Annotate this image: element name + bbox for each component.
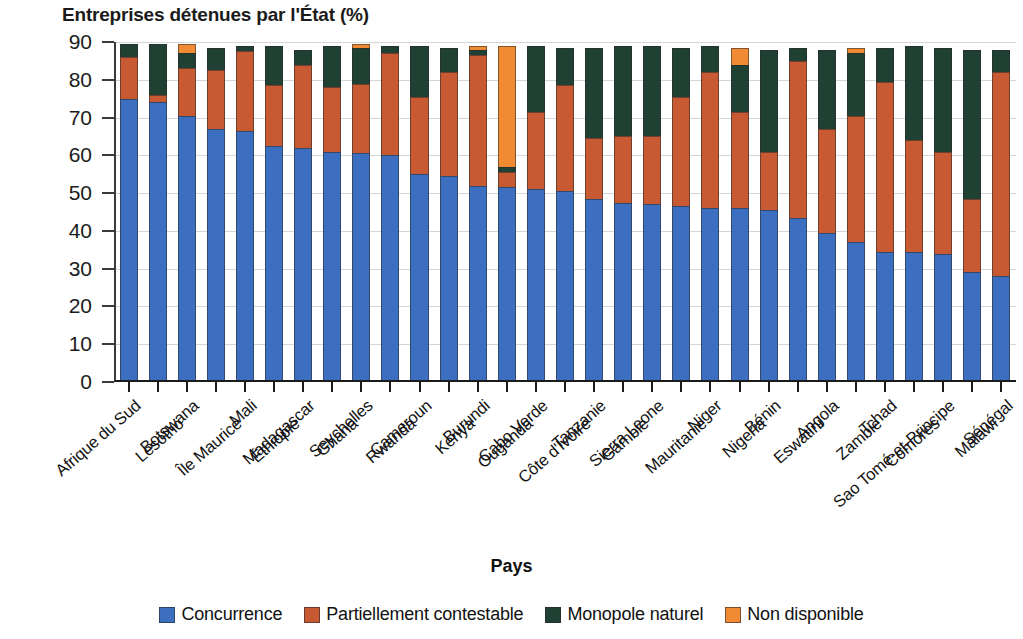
- x-tick-mark: [797, 382, 799, 392]
- x-category-label: Afrique du Sud: [51, 396, 144, 480]
- x-tick-mark: [855, 382, 857, 392]
- legend-swatch-icon: [725, 607, 741, 623]
- x-tick-mark: [535, 382, 537, 392]
- x-tick-mark: [273, 382, 275, 392]
- x-axis-ticks: [114, 382, 1016, 394]
- x-tick-mark: [477, 382, 479, 392]
- y-tick-label: 70: [69, 106, 92, 130]
- x-tick-mark: [564, 382, 566, 392]
- legend-label: Concurrence: [181, 604, 282, 625]
- x-tick-mark: [768, 382, 770, 392]
- y-tick-mark: [102, 117, 114, 119]
- y-tick-label: 90: [69, 30, 92, 54]
- x-tick-mark: [448, 382, 450, 392]
- y-tick-label: 50: [69, 181, 92, 205]
- legend-item[interactable]: Non disponible: [725, 604, 863, 625]
- legend-item[interactable]: Partiellement contestable: [304, 604, 523, 625]
- legend-label: Partiellement contestable: [326, 604, 523, 625]
- x-tick-mark: [651, 382, 653, 392]
- x-tick-mark: [186, 382, 188, 392]
- x-category-label: Cameroun: [366, 396, 435, 460]
- x-tick-mark: [1000, 382, 1002, 392]
- y-tick-mark: [102, 154, 114, 156]
- legend-swatch-icon: [304, 607, 320, 623]
- chart-legend: ConcurrencePartiellement contestableMono…: [0, 604, 1023, 625]
- x-tick-mark: [913, 382, 915, 392]
- legend-swatch-icon: [545, 607, 561, 623]
- y-tick-mark: [102, 305, 114, 307]
- x-tick-mark: [157, 382, 159, 392]
- y-tick-mark: [102, 268, 114, 270]
- legend-label: Non disponible: [747, 604, 863, 625]
- legend-label: Monopole naturel: [567, 604, 703, 625]
- x-axis-category-labels: Afrique du SudLesothoBotswanaÎle Maurice…: [0, 394, 1023, 554]
- y-tick-label: 20: [69, 294, 92, 318]
- y-tick-label: 30: [69, 257, 92, 281]
- legend-item[interactable]: Concurrence: [159, 604, 282, 625]
- x-tick-mark: [360, 382, 362, 392]
- y-tick-mark: [102, 79, 114, 81]
- y-tick-mark: [102, 230, 114, 232]
- x-tick-mark: [331, 382, 333, 392]
- x-tick-mark: [389, 382, 391, 392]
- x-tick-mark: [826, 382, 828, 392]
- x-tick-mark: [680, 382, 682, 392]
- y-tick-mark: [102, 343, 114, 345]
- y-tick-mark: [102, 192, 114, 194]
- y-tick-label: 0: [80, 370, 92, 394]
- chart-root: Entreprises détenues par l'État (%) 0102…: [0, 0, 1023, 639]
- y-tick-mark: [102, 381, 114, 383]
- legend-item[interactable]: Monopole naturel: [545, 604, 703, 625]
- plot-frame: [114, 42, 1016, 382]
- y-tick-mark: [102, 41, 114, 43]
- x-tick-mark: [302, 382, 304, 392]
- x-axis-title: Pays: [0, 556, 1023, 577]
- x-tick-mark: [622, 382, 624, 392]
- y-axis: 0102030405060708090: [0, 0, 114, 390]
- x-tick-mark: [128, 382, 130, 392]
- x-tick-mark: [419, 382, 421, 392]
- y-tick-label: 80: [69, 68, 92, 92]
- legend-swatch-icon: [159, 607, 175, 623]
- x-category-label: Sénégal: [960, 396, 1017, 449]
- x-tick-mark: [593, 382, 595, 392]
- x-tick-mark: [942, 382, 944, 392]
- x-tick-mark: [709, 382, 711, 392]
- x-tick-mark: [506, 382, 508, 392]
- x-tick-mark: [971, 382, 973, 392]
- y-tick-label: 60: [69, 143, 92, 167]
- y-tick-label: 40: [69, 219, 92, 243]
- x-tick-mark: [215, 382, 217, 392]
- y-tick-label: 10: [69, 332, 92, 356]
- plot-area: [114, 42, 1016, 382]
- x-tick-mark: [739, 382, 741, 392]
- x-tick-mark: [244, 382, 246, 392]
- x-tick-mark: [884, 382, 886, 392]
